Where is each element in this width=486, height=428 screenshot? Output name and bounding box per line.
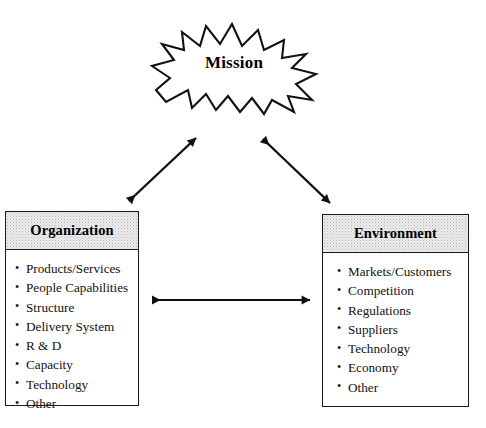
arrow-organization-mission[interactable] (129, 138, 196, 201)
list-item: Delivery System (15, 317, 138, 336)
list-item: Other (15, 394, 138, 413)
arrow-mission-environment[interactable] (263, 139, 330, 203)
list-item: R & D (15, 336, 138, 355)
environment-item-list: Markets/Customers Competition Regulation… (323, 253, 468, 397)
organization-panel-header: Organization (6, 212, 138, 250)
list-item: Markets/Customers (337, 262, 468, 281)
organization-panel[interactable]: Organization Products/Services People Ca… (5, 211, 139, 406)
environment-panel-header: Environment (323, 215, 468, 253)
list-item: Suppliers (337, 320, 468, 339)
list-item: Regulations (337, 301, 468, 320)
list-item: Structure (15, 298, 138, 317)
list-item: Other (337, 378, 468, 397)
environment-panel-title: Environment (354, 225, 437, 242)
organization-item-list: Products/Services People Capabilities St… (6, 250, 138, 413)
organization-panel-title: Organization (30, 222, 113, 239)
list-item: People Capabilities (15, 278, 138, 297)
list-item: Products/Services (15, 259, 138, 278)
list-item: Technology (15, 375, 138, 394)
environment-panel[interactable]: Environment Markets/Customers Competitio… (322, 214, 469, 407)
list-item: Capacity (15, 355, 138, 374)
mission-starburst-shape[interactable] (148, 22, 320, 116)
list-item: Economy (337, 358, 468, 377)
list-item: Competition (337, 281, 468, 300)
list-item: Technology (337, 339, 468, 358)
diagram-canvas: Mission Organization Products/Services P… (0, 0, 486, 428)
